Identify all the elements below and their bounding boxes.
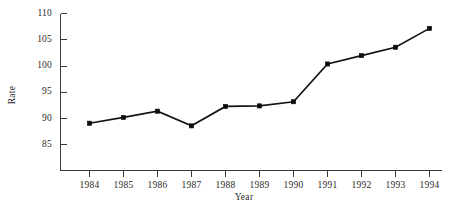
- y-tick-label-90: 90: [14, 114, 52, 124]
- line-chart: 85 90 95 100 105 110 1984 1985 1986 1987…: [0, 0, 453, 213]
- x-tick-label-1988: 1988: [216, 181, 236, 191]
- x-tick-marks: [90, 171, 430, 177]
- x-tick-label-1985: 1985: [114, 181, 134, 191]
- x-tick-label-1991: 1991: [318, 181, 338, 191]
- data-point-1986: [155, 109, 159, 113]
- data-point-1987: [189, 124, 193, 128]
- data-point-1989: [257, 104, 261, 108]
- x-tick-label-1986: 1986: [148, 181, 168, 191]
- x-tick-label-1989: 1989: [250, 181, 270, 191]
- data-point-1994: [427, 26, 431, 30]
- x-tick-label-1994: 1994: [420, 181, 440, 191]
- y-tick-label-105: 105: [14, 35, 52, 45]
- y-tick-label-110: 110: [14, 9, 52, 19]
- y-axis-title: Rate: [8, 86, 18, 105]
- data-point-1985: [121, 115, 125, 119]
- x-tick-label-1987: 1987: [182, 181, 202, 191]
- y-tick-label-100: 100: [14, 61, 52, 71]
- y-tick-label-95: 95: [14, 88, 52, 98]
- x-tick-label-1990: 1990: [284, 181, 304, 191]
- data-point-1992: [359, 54, 363, 58]
- data-point-1991: [325, 62, 329, 66]
- y-tick-label-85: 85: [14, 140, 52, 150]
- x-tick-label-1984: 1984: [80, 181, 100, 191]
- x-tick-label-1992: 1992: [352, 181, 372, 191]
- rate-series-line: [90, 28, 430, 125]
- x-axis-title: Year: [235, 193, 254, 203]
- data-point-1988: [223, 104, 227, 108]
- rate-series-markers: [87, 26, 431, 128]
- x-tick-label-1993: 1993: [386, 181, 406, 191]
- y-tick-marks: [61, 14, 67, 145]
- data-point-1984: [87, 121, 91, 125]
- data-point-1990: [291, 100, 295, 104]
- data-point-1993: [393, 45, 397, 49]
